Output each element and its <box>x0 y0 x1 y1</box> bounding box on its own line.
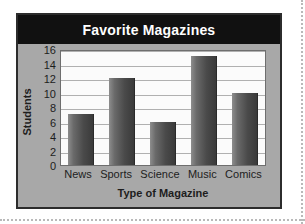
x-axis-title: Type of Magazine <box>60 187 266 199</box>
y-axis-tick-label: 14 <box>44 59 56 71</box>
plot-area <box>60 50 266 166</box>
y-axis-tick-label: 10 <box>44 88 56 100</box>
bar-science <box>150 122 176 166</box>
y-axis-tick-label: 12 <box>44 73 56 85</box>
x-axis-tick-label: News <box>64 168 92 180</box>
y-axis-tick-label: 0 <box>50 160 56 172</box>
bar-news <box>68 114 94 165</box>
chart-title: Favorite Magazines <box>83 22 216 38</box>
bar-sports <box>109 78 135 165</box>
x-axis-tick-label: Sports <box>100 168 132 180</box>
y-axis-tick-labels: 0246810121416 <box>34 50 56 166</box>
y-axis-tick-label: 6 <box>50 117 56 129</box>
y-axis-title: Students <box>19 74 35 150</box>
x-axis-tick-label: Science <box>140 168 179 180</box>
bar-chart-figure: Favorite Magazines Students 024681012141… <box>16 13 282 209</box>
page-guide-right <box>301 0 303 224</box>
chart-plot-region: Students 0246810121416 NewsSportsScience… <box>18 44 280 207</box>
page-guide-bottom <box>0 219 305 221</box>
x-axis-tick-labels: NewsSportsScienceMusicComics <box>60 168 266 180</box>
chart-title-band: Favorite Magazines <box>18 15 280 44</box>
bar-comics <box>232 93 258 166</box>
y-axis-tick-label: 8 <box>50 102 56 114</box>
y-axis-tick-label: 16 <box>44 44 56 56</box>
x-axis-tick-label: Music <box>188 168 217 180</box>
bar-series <box>61 51 265 165</box>
x-axis-tick-label: Comics <box>225 168 262 180</box>
y-axis-title-text: Students <box>21 88 33 135</box>
bar-music <box>191 56 217 165</box>
y-axis-tick-label: 2 <box>50 146 56 158</box>
y-axis-tick-label: 4 <box>50 131 56 143</box>
